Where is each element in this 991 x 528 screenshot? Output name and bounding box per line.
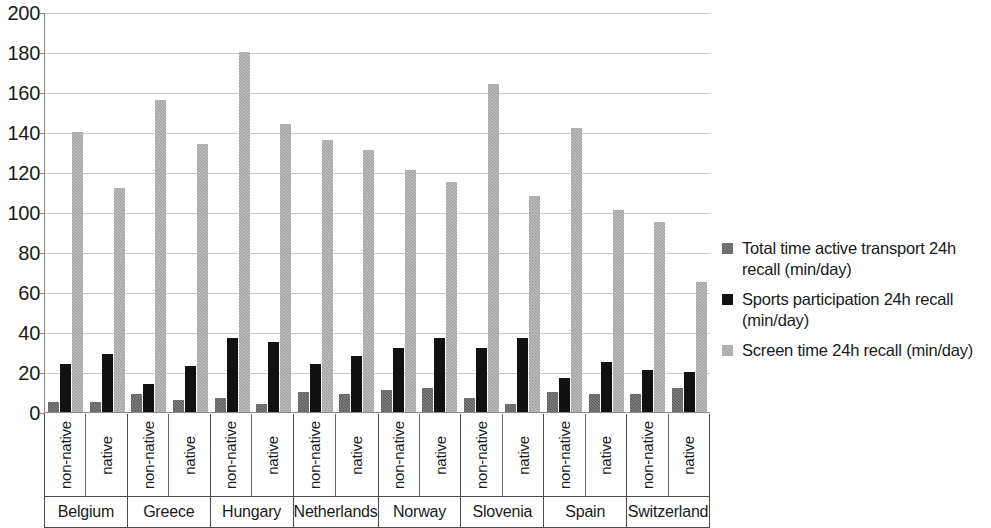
group-label-row: non-nativenative <box>379 414 461 497</box>
x-tick-label-text: native <box>348 436 365 475</box>
x-tick-label-non-native: non-native <box>45 414 86 496</box>
bar-screen <box>571 128 582 412</box>
bar-transport <box>90 402 101 412</box>
bar-screen <box>405 170 416 412</box>
x-tick-label-native: native <box>336 414 378 496</box>
x-tick-label-text: non-native <box>57 421 74 489</box>
x-tick-label-text: native <box>181 436 198 475</box>
bar-sports <box>185 366 196 412</box>
bar-sports <box>227 338 238 412</box>
x-tick-label-non-native: non-native <box>128 414 169 496</box>
bar-sports <box>310 364 321 412</box>
legend-swatch-transport <box>722 243 733 254</box>
y-tick-label: 0 <box>0 403 40 423</box>
bar-cluster <box>170 13 212 412</box>
bar-transport <box>256 404 267 412</box>
legend-item: Screen time 24h recall (min/day) <box>722 340 987 361</box>
bar-screen <box>488 84 499 412</box>
bar-sports <box>517 338 528 412</box>
bar-screen <box>239 52 250 412</box>
x-tick-label-non-native: non-native <box>544 414 585 496</box>
bar-screen <box>197 144 208 412</box>
x-tick-label-native: native <box>420 414 460 496</box>
bar-cluster <box>128 13 170 412</box>
bar-cluster <box>461 13 503 412</box>
legend-item: Sports participation 24h recall (min/day… <box>722 289 987 331</box>
country-block: non-nativenativeSlovenia <box>461 414 544 527</box>
country-label: Norway <box>379 497 461 527</box>
x-tick-label-text: non-native <box>306 421 323 489</box>
bar-cluster <box>419 13 461 412</box>
bar-sports <box>60 364 71 412</box>
x-tick-label-native: native <box>669 414 709 496</box>
x-tick-label-text: non-native <box>222 421 239 489</box>
bar-screen <box>529 196 540 412</box>
bar-transport <box>48 402 59 412</box>
x-tick-label-non-native: non-native <box>211 414 252 496</box>
bar-screen <box>114 188 125 412</box>
bar-sports <box>601 362 612 412</box>
country-label: Slovenia <box>461 497 543 527</box>
x-axis: non-nativenativeBelgiumnon-nativenativeG… <box>44 414 710 528</box>
y-tick-label: 20 <box>0 363 40 383</box>
bar-transport <box>464 398 475 412</box>
y-tick-label: 200 <box>0 3 40 23</box>
bar-cluster <box>668 13 710 412</box>
x-tick-label-text: non-native <box>639 421 656 489</box>
x-tick-label-text: native <box>680 436 697 475</box>
legend-swatch-screen <box>722 345 733 356</box>
x-tick-label-text: native <box>264 436 281 475</box>
bar-sports <box>393 348 404 412</box>
country-block: non-nativenativeNorway <box>379 414 462 527</box>
bar-sports <box>143 384 154 412</box>
bar-transport <box>630 394 641 412</box>
bar-transport <box>339 394 350 412</box>
bars-layer <box>45 13 710 412</box>
country-block: non-nativenativeSpain <box>544 414 627 527</box>
bar-cluster <box>544 13 586 412</box>
bar-cluster <box>211 13 253 412</box>
country-label: Switzerland <box>627 497 709 527</box>
bar-screen <box>322 140 333 412</box>
bar-transport <box>381 390 392 412</box>
y-tick-label: 180 <box>0 43 40 63</box>
x-tick-label-native: native <box>252 414 292 496</box>
x-tick-label-native: native <box>169 414 209 496</box>
legend-item-label: Total time active transport 24h recall (… <box>742 238 987 280</box>
bar-transport <box>505 404 516 412</box>
chart-legend: Total time active transport 24h recall (… <box>722 238 987 370</box>
x-tick-label-text: non-native <box>556 421 573 489</box>
legend-item-label: Screen time 24h recall (min/day) <box>742 340 973 361</box>
group-label-row: non-nativenative <box>211 414 293 497</box>
x-tick-label-text: non-native <box>473 421 490 489</box>
group-label-row: non-nativenative <box>45 414 127 497</box>
bar-cluster <box>502 13 544 412</box>
y-tick-label: 160 <box>0 83 40 103</box>
x-tick-label-non-native: non-native <box>461 414 502 496</box>
y-tick-label: 80 <box>0 243 40 263</box>
country-block: non-nativenativeSwitzerland <box>627 414 709 527</box>
bar-screen <box>696 282 707 412</box>
group-label-row: non-nativenative <box>627 414 709 497</box>
bar-sports <box>684 372 695 412</box>
bar-transport <box>173 400 184 412</box>
country-block: non-nativenativeGreece <box>128 414 211 527</box>
bar-cluster <box>378 13 420 412</box>
bar-screen <box>446 182 457 412</box>
x-tick-label-non-native: non-native <box>294 414 337 496</box>
bar-transport <box>298 392 309 412</box>
legend-swatch-sports <box>722 294 733 305</box>
bar-transport <box>131 394 142 412</box>
bar-transport <box>672 388 683 412</box>
bar-screen <box>613 210 624 412</box>
bar-cluster <box>336 13 378 412</box>
bar-transport <box>589 394 600 412</box>
bar-sports <box>559 378 570 412</box>
x-tick-label-text: native <box>432 436 449 475</box>
bar-cluster <box>294 13 336 412</box>
y-tick-label: 120 <box>0 163 40 183</box>
bar-screen <box>280 124 291 412</box>
bar-sports <box>476 348 487 412</box>
bar-cluster <box>585 13 627 412</box>
y-tick-label: 140 <box>0 123 40 143</box>
